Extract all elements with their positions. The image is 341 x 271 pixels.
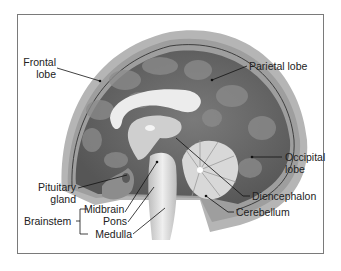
frontal-line2: lobe	[22, 68, 56, 80]
label-midbrain: Midbrain	[84, 203, 124, 215]
label-parietal-lobe: Parietal lobe	[249, 60, 307, 72]
brain-illustration	[0, 0, 341, 271]
label-medulla: Medulla	[84, 228, 132, 240]
pituitary-line1: Pituitary	[22, 181, 76, 193]
label-diencephalon: Diencephalon	[252, 190, 316, 202]
label-cerebellum: Cerebellum	[236, 206, 290, 218]
label-occipital-lobe: Occipital lobe	[285, 151, 325, 175]
label-pons: Pons	[84, 215, 127, 227]
label-brainstem: Brainstem	[24, 215, 71, 227]
label-pituitary-gland: Pituitary gland	[22, 181, 76, 205]
pituitary-line2: gland	[22, 193, 76, 205]
frontal-line1: Frontal	[22, 56, 56, 68]
occipital-line1: Occipital	[285, 151, 325, 163]
occipital-line2: lobe	[285, 163, 325, 175]
label-frontal-lobe: Frontal lobe	[22, 56, 56, 80]
brainstem-shape	[148, 153, 176, 240]
